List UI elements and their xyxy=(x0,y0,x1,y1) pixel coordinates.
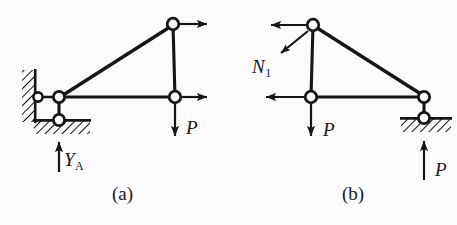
caption-b: (b) xyxy=(342,184,364,203)
joint-mid xyxy=(305,91,317,103)
panel-b-forces xyxy=(266,25,424,180)
panel-a-members xyxy=(38,24,175,120)
caption-a: (a) xyxy=(112,184,133,203)
joint-left xyxy=(53,91,64,102)
joint-wall-pin xyxy=(33,92,42,101)
member-vertical-post xyxy=(173,24,175,97)
panel-a xyxy=(22,18,207,172)
label-n1-subscript: 1 xyxy=(265,66,271,80)
joint-right xyxy=(418,91,429,102)
figure-canvas: P YA N1 P P (a) (b) xyxy=(0,0,457,225)
panel-b xyxy=(266,19,452,180)
joint-base-pin xyxy=(418,112,429,123)
member-diagonal-chord xyxy=(60,25,173,97)
member-diagonal-chord xyxy=(314,26,424,96)
label-force-p-b-mid: P xyxy=(323,120,335,139)
label-force-n1: N1 xyxy=(252,57,271,76)
joint-right xyxy=(169,91,181,103)
joint-top xyxy=(307,19,319,31)
label-force-p-b-bottom: P xyxy=(435,160,447,179)
joint-top xyxy=(167,18,179,30)
label-force-p-a: P xyxy=(186,118,198,137)
truss-diagram-svg xyxy=(0,0,457,225)
joint-base-pin xyxy=(53,114,64,125)
label-reaction-ya: YA xyxy=(64,150,83,169)
arrow-n1 xyxy=(281,31,308,53)
panel-b-joints xyxy=(305,19,429,123)
panel-b-members xyxy=(311,25,424,118)
label-ya-subscript: A xyxy=(75,159,84,173)
member-vertical-post xyxy=(311,25,313,97)
